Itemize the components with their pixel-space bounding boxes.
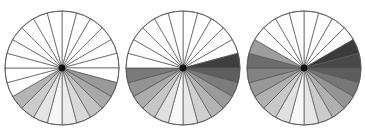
sector-wheel-3 <box>243 7 365 129</box>
radial-chart-3 <box>243 7 365 129</box>
center-hub <box>180 65 187 72</box>
sector-wheel-2 <box>122 7 244 129</box>
radial-chart-1 <box>1 7 123 129</box>
figure-root <box>0 0 365 136</box>
radial-chart-2 <box>122 7 244 129</box>
center-hub <box>301 65 308 72</box>
sector-wheel-1 <box>1 7 123 129</box>
center-hub <box>59 65 66 72</box>
